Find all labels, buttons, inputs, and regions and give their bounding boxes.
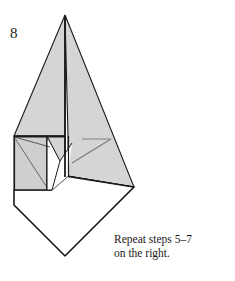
caption-line-1: Repeat steps 5–7 xyxy=(114,232,234,246)
caption-line-2: on the right. xyxy=(114,246,234,260)
origami-step-figure: 8 Repeat steps 5–7 on the right. xyxy=(0,0,235,281)
left-triangle-shape xyxy=(14,15,65,136)
step-number-label: 8 xyxy=(10,26,18,41)
figure-caption: Repeat steps 5–7 on the right. xyxy=(114,232,234,260)
